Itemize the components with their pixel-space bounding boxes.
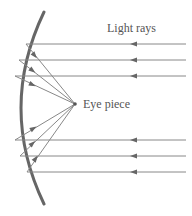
arrow-left-icon	[130, 42, 137, 47]
arrow-icon	[28, 81, 36, 88]
focal-point	[73, 102, 77, 106]
incoming-arrowheads	[130, 42, 137, 175]
reflected-ray-6	[27, 104, 75, 172]
arrow-left-icon	[130, 58, 137, 63]
light-rays-label: Light rays	[107, 21, 156, 36]
arrow-left-icon	[130, 138, 137, 143]
eye-piece-label: Eye piece	[83, 97, 130, 112]
reflected-ray-5	[20, 104, 75, 156]
arrow-left-icon	[130, 154, 137, 159]
reflected-ray-4	[15, 104, 75, 140]
reflected-rays	[15, 44, 75, 172]
concave-mirror	[21, 12, 44, 204]
arrow-left-icon	[130, 74, 137, 79]
arrow-left-icon	[130, 170, 137, 175]
